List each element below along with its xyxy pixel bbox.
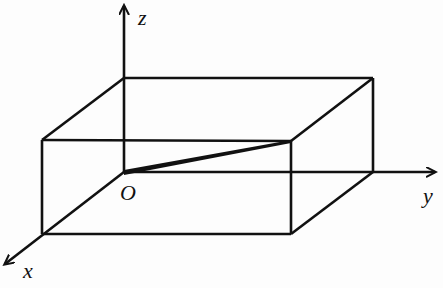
origin-label: O xyxy=(120,180,136,205)
box-edge-top-right-slant xyxy=(291,78,373,141)
x-axis-label: x xyxy=(22,258,33,283)
figure: z y x O xyxy=(0,0,443,288)
box-edge-top-left-slant xyxy=(42,78,124,140)
box-edge-bottom-right-slant xyxy=(291,172,373,234)
diagonal-segment xyxy=(124,140,291,175)
coordinate-box-diagram: z y x O xyxy=(0,0,443,288)
y-axis-label: y xyxy=(421,183,433,208)
box-edge-front-top xyxy=(42,140,291,141)
x-axis xyxy=(5,172,124,264)
z-axis-label: z xyxy=(137,5,147,30)
